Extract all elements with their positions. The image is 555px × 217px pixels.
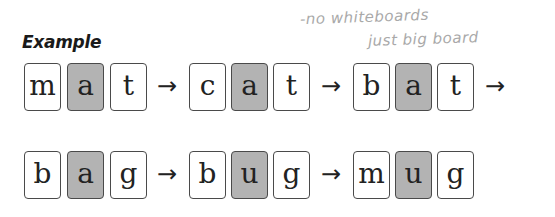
- handwritten-note-line-1: -no whiteboards: [300, 6, 429, 28]
- handwritten-note-line-2: just big board: [368, 28, 479, 50]
- letter-tile: b: [24, 151, 61, 199]
- letter-tile-highlighted: a: [395, 63, 432, 111]
- letter-tile-highlighted: u: [231, 151, 268, 199]
- letter-tile-highlighted: a: [231, 63, 268, 111]
- letter-tile: t: [437, 63, 474, 111]
- letter-tile: b: [189, 151, 226, 199]
- right-arrow-icon: →: [157, 72, 177, 100]
- right-arrow-icon: →: [321, 160, 341, 188]
- letter-tile-highlighted: a: [67, 151, 104, 199]
- letter-tile: t: [273, 63, 310, 111]
- letter-tile: g: [437, 151, 474, 199]
- letter-tile: g: [273, 151, 310, 199]
- example-heading: Example: [22, 32, 101, 52]
- letter-tile: g: [110, 151, 147, 199]
- letter-tile: m: [24, 63, 61, 111]
- word-chain-row-2: b a g → b u g → m u g: [0, 151, 555, 201]
- right-arrow-icon: →: [485, 72, 505, 100]
- letter-tile-highlighted: a: [67, 63, 104, 111]
- right-arrow-icon: →: [157, 160, 177, 188]
- letter-tile: t: [110, 63, 147, 111]
- letter-tile: c: [189, 63, 226, 111]
- letter-tile-highlighted: u: [395, 151, 432, 199]
- word-chain-row-1: m a t → c a t → b a t →: [0, 63, 555, 113]
- letter-tile: b: [353, 63, 390, 111]
- right-arrow-icon: →: [321, 72, 341, 100]
- letter-tile: m: [353, 151, 390, 199]
